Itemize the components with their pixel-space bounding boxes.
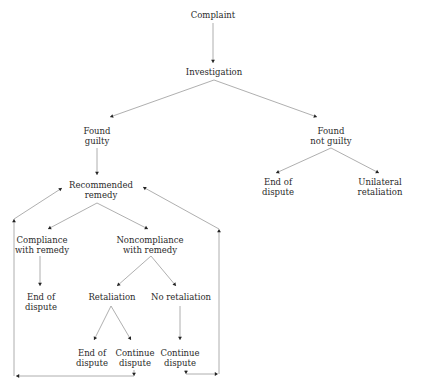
edge-loop-left-bottom-arrowhead-icon — [16, 374, 19, 378]
edge-loop-right-vertical-arrowhead-icon — [217, 229, 221, 232]
edge-loop-left-down-arrowhead-icon — [132, 373, 136, 376]
edge-loop-right-diagonal — [143, 187, 219, 229]
node-compliance-with-remedy: Compliance with remedy — [15, 235, 69, 255]
edge-remedy-right — [97, 203, 148, 229]
node-end-of-dispute-not-guilty: End of dispute — [262, 177, 294, 197]
edge-no-retaliation-continue-arrowhead-icon — [178, 337, 182, 340]
node-unilateral-retaliation: Unilateral retaliation — [358, 177, 403, 197]
node-end-of-dispute-compliance: End of dispute — [25, 292, 57, 312]
edge-guilty-remedy-arrowhead-icon — [95, 172, 99, 175]
edge-loop-left-diagonal — [14, 188, 62, 219]
edge-loop-left-vertical-arrowhead-icon — [12, 219, 16, 222]
node-no-retaliation: No retaliation — [151, 292, 211, 302]
node-complaint: Complaint — [191, 10, 236, 20]
edge-not-guilty-right — [331, 148, 379, 173]
node-recommended-remedy: Recommended remedy — [69, 180, 133, 200]
edge-retaliation-left — [94, 306, 111, 340]
node-end-of-dispute-retaliation: End of dispute — [76, 348, 108, 368]
edge-noncompliance-left — [117, 256, 151, 286]
node-retaliation: Retaliation — [88, 292, 135, 302]
edge-remedy-left — [48, 203, 97, 229]
edge-not-guilty-left — [276, 148, 331, 173]
edge-loop-right-down-arrowhead-icon — [184, 371, 188, 374]
edge-retaliation-right — [111, 306, 131, 340]
edge-investigation-left — [110, 80, 214, 117]
flowchart-canvas: Complaint Investigation Found guilty Fou… — [0, 0, 421, 385]
node-noncompliance-with-remedy: Noncompliance with remedy — [116, 235, 183, 255]
node-found-not-guilty: Found not guilty — [310, 126, 351, 146]
node-found-guilty: Found guilty — [84, 126, 111, 146]
edge-complaint-investigation-arrowhead-icon — [211, 60, 215, 63]
node-continue-dispute-no-retaliation: Continue dispute — [160, 348, 199, 368]
node-continue-dispute-retaliation: Continue dispute — [115, 348, 154, 368]
edge-loop-right-bottom-arrowhead-icon — [215, 372, 218, 376]
edge-investigation-right — [214, 80, 317, 117]
edge-noncompliance-right — [151, 256, 176, 286]
edge-compliance-end-arrowhead-icon — [38, 283, 42, 286]
node-investigation: Investigation — [186, 67, 242, 77]
